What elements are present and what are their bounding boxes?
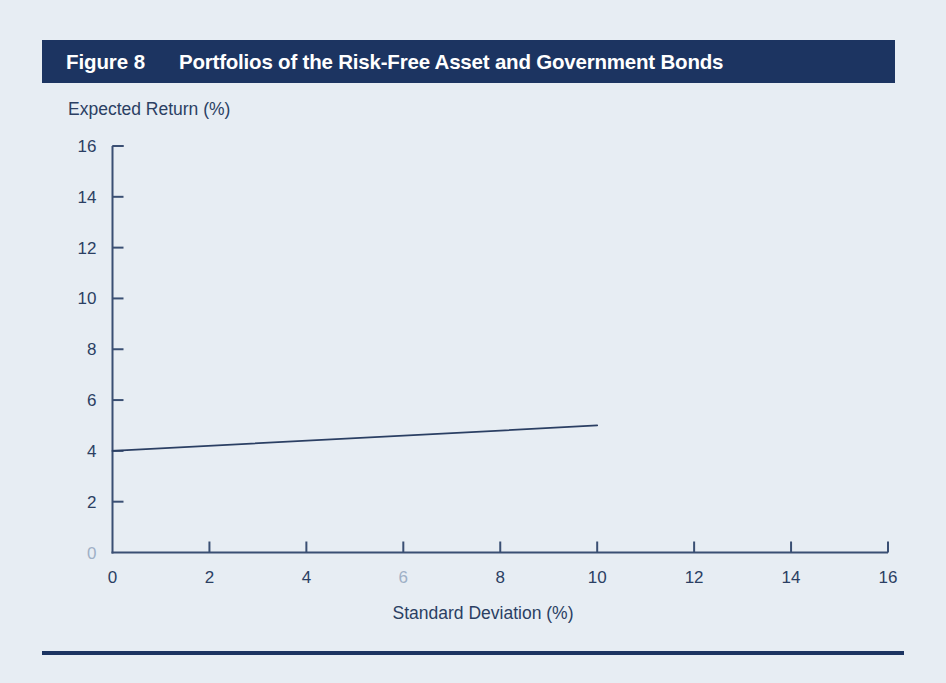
y-axis-tick-label: 14 bbox=[78, 188, 97, 207]
x-axis-tick-labels: 0246810121416 bbox=[108, 568, 898, 587]
figure-container: Figure 8 Portfolios of the Risk-Free Ass… bbox=[0, 0, 946, 683]
axis-lines bbox=[112, 146, 889, 554]
y-axis-tick-label: 12 bbox=[78, 239, 97, 258]
y-axis-tick-label: 0 bbox=[87, 544, 96, 563]
data-series-line bbox=[113, 425, 598, 450]
chart-svg: 0246810121416 0246810121416 bbox=[0, 0, 946, 683]
x-axis-tick-label: 10 bbox=[588, 568, 607, 587]
chart-plot-area: 0246810121416 0246810121416 bbox=[0, 0, 946, 683]
x-axis-ticks bbox=[209, 542, 888, 553]
x-axis-tick-label: 4 bbox=[302, 568, 311, 587]
y-axis-tick-label: 10 bbox=[78, 289, 97, 308]
y-axis-tick-label: 4 bbox=[87, 442, 96, 461]
x-axis-tick-label: 6 bbox=[399, 568, 408, 587]
x-axis-tick-label: 14 bbox=[782, 568, 801, 587]
x-axis-tick-label: 12 bbox=[685, 568, 704, 587]
y-axis-tick-label: 6 bbox=[87, 391, 96, 410]
y-axis-tick-labels: 0246810121416 bbox=[78, 137, 97, 563]
figure-bottom-rule bbox=[42, 651, 904, 655]
y-axis-tick-label: 16 bbox=[78, 137, 97, 156]
x-axis-tick-label: 8 bbox=[496, 568, 505, 587]
x-axis-tick-label: 0 bbox=[108, 568, 117, 587]
x-axis-title: Standard Deviation (%) bbox=[0, 603, 946, 624]
x-axis-tick-label: 16 bbox=[879, 568, 898, 587]
y-axis-ticks bbox=[113, 146, 124, 502]
y-axis-tick-label: 8 bbox=[87, 340, 96, 359]
y-axis-tick-label: 2 bbox=[87, 493, 96, 512]
x-axis-tick-label: 2 bbox=[205, 568, 214, 587]
